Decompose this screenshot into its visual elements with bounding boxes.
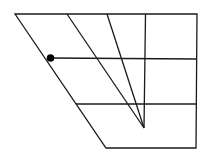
diagonal-left-line <box>67 14 144 128</box>
diagonal-right-line <box>107 14 144 128</box>
outer-frame <box>15 14 197 148</box>
vertical-line <box>144 14 146 128</box>
diagram-canvas <box>0 0 207 157</box>
middle-horizontal-line <box>50 58 197 59</box>
marker-dot <box>47 54 55 62</box>
inner-lines <box>50 14 197 128</box>
